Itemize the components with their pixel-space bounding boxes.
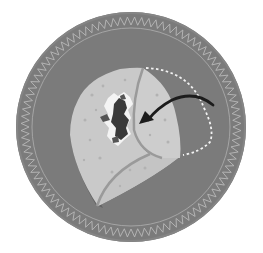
illustration-canvas: [0, 0, 263, 253]
tortilla-fold-illustration: Folding a tortilla: [0, 0, 263, 253]
